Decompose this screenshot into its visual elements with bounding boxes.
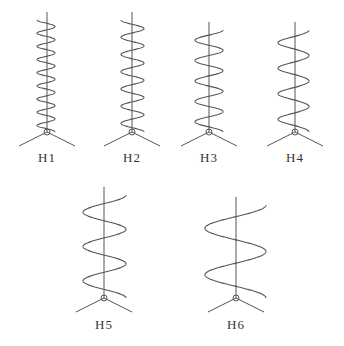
ground-radial xyxy=(209,132,237,146)
antenna-h1 xyxy=(19,12,75,146)
ground-radial xyxy=(181,132,209,146)
helical-antennas-diagram xyxy=(0,0,344,346)
ground-radial xyxy=(47,132,75,146)
ground-radial xyxy=(76,298,104,312)
antenna-label-h3: H3 xyxy=(200,150,218,166)
helix-coil xyxy=(37,20,55,132)
helix-coil xyxy=(278,30,309,132)
ground-radial xyxy=(236,298,264,312)
antenna-label-h1: H1 xyxy=(38,150,56,166)
antenna-label-h2: H2 xyxy=(123,150,141,166)
antenna-h4 xyxy=(267,22,323,146)
ground-radial xyxy=(132,132,160,146)
ground-radial xyxy=(19,132,47,146)
antenna-label-h6: H6 xyxy=(227,317,245,333)
antenna-h5 xyxy=(76,187,132,312)
ground-radial xyxy=(208,298,236,312)
antenna-label-h4: H4 xyxy=(286,150,304,166)
antenna-h2 xyxy=(104,12,160,146)
ground-radial xyxy=(267,132,295,146)
ground-radial xyxy=(295,132,323,146)
antenna-h6 xyxy=(205,197,266,312)
antenna-label-h5: H5 xyxy=(95,317,113,333)
ground-radial xyxy=(104,132,132,146)
ground-radial xyxy=(104,298,132,312)
antenna-h3 xyxy=(181,22,237,146)
